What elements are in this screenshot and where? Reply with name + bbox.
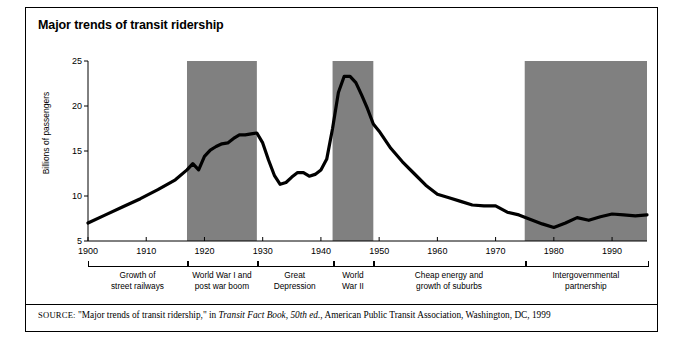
source-text-part1: "Major trends of transit ridership," in [76, 310, 219, 320]
era-bracket-label: Cheap energy and growth of suburbs [373, 270, 524, 291]
source-text-part2: , American Public Transit Association, W… [320, 310, 550, 320]
era-bracket [257, 261, 335, 267]
shaded-band [187, 61, 257, 241]
era-bracket [187, 261, 259, 267]
era-bracket-label: World War I and post war boom [187, 270, 257, 291]
source-caption: SOURCE: "Major trends of transit ridersh… [38, 310, 551, 320]
figure-panel: Major trends of transit ridership Billio… [25, 7, 658, 332]
era-bracket [88, 261, 189, 267]
era-bracket [525, 261, 649, 267]
era-bracket [333, 261, 376, 267]
source-label: SOURCE: [38, 310, 76, 320]
chart-area: Billions of passengers 510152025 1900191… [26, 8, 657, 331]
era-bracket-label: Great Depression [257, 270, 333, 291]
era-bracket [373, 261, 526, 267]
era-bracket-label: World War II [333, 270, 374, 291]
horizontal-divider [26, 304, 657, 305]
era-bracket-label: Growth of street railways [88, 270, 187, 291]
era-bracket-label: Intergovernmental partnership [525, 270, 647, 291]
source-title-italic: Transit Fact Book, 50th ed. [219, 310, 321, 320]
